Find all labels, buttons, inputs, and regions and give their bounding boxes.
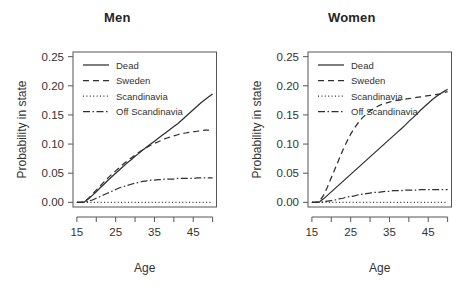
legend-label: Off Scandinavia (351, 106, 419, 117)
y-tick-label: 0.20 (276, 80, 298, 92)
legend-label: Dead (116, 60, 139, 71)
y-axis-title: Probability in state (15, 80, 29, 178)
x-axis-title: Age (369, 261, 391, 275)
y-tick-label: 0.10 (276, 138, 298, 150)
x-tick-label: 35 (383, 226, 396, 238)
x-tick-label: 25 (344, 226, 357, 238)
plot-area-women: 0.000.050.100.150.200.2515253545AgeProba… (235, 0, 469, 290)
x-tick-label: 45 (421, 226, 434, 238)
y-axis-title: Probability in state (250, 80, 264, 178)
plot-area-men: 0.000.050.100.150.200.2515253545AgeProba… (0, 0, 235, 290)
y-tick-label: 0.00 (42, 196, 64, 208)
chart-panel-women: Women0.000.050.100.150.200.2515253545Age… (235, 0, 469, 290)
legend-label: Scandinavia (351, 91, 403, 102)
chart-panel-men: Men0.000.050.100.150.200.2515253545AgePr… (0, 0, 235, 290)
legend-label: Off Scandinavia (116, 106, 184, 117)
y-tick-label: 0.15 (42, 109, 64, 121)
legend-label: Sweden (351, 75, 385, 86)
x-tick-label: 25 (109, 226, 122, 238)
x-tick-label: 15 (70, 226, 83, 238)
y-tick-label: 0.25 (276, 51, 298, 63)
x-tick-label: 35 (148, 226, 161, 238)
figure-panel-grid: Men0.000.050.100.150.200.2515253545AgePr… (0, 0, 469, 290)
y-tick-label: 0.25 (42, 51, 64, 63)
y-tick-label: 0.00 (276, 196, 298, 208)
x-tick-label: 45 (187, 226, 200, 238)
y-tick-label: 0.15 (276, 109, 298, 121)
y-tick-label: 0.20 (42, 80, 64, 92)
y-tick-label: 0.10 (42, 138, 64, 150)
y-tick-label: 0.05 (42, 167, 64, 179)
legend-label: Dead (351, 60, 374, 71)
x-axis-title: Age (134, 261, 156, 275)
y-tick-label: 0.05 (276, 167, 298, 179)
legend-label: Scandinavia (116, 91, 168, 102)
x-tick-label: 15 (305, 226, 318, 238)
legend-label: Sweden (116, 75, 150, 86)
